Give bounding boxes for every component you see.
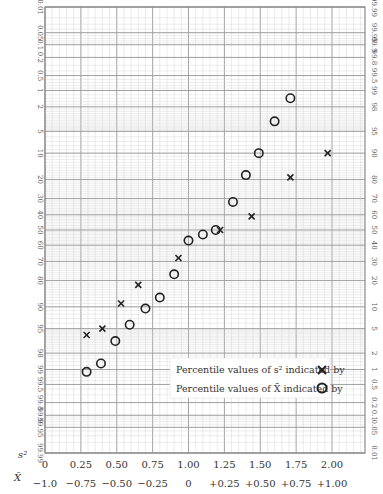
- y-tick-right: 70: [370, 194, 378, 203]
- y-tick-right: 0.2: [370, 397, 378, 408]
- x-tick: +0.50: [245, 478, 276, 489]
- x-tick: +0.25: [209, 478, 240, 489]
- x-axis-symbol: X̄: [13, 472, 22, 483]
- x-tick: 0: [185, 478, 191, 489]
- y-axis-left-labels: 0.010.050.10.20.512510203040506070809095…: [36, 0, 44, 463]
- x-tick: 1.25: [213, 459, 235, 470]
- y-tick-right: 80: [370, 175, 378, 184]
- y-tick-right: 20: [370, 276, 378, 285]
- circle-marker: [97, 359, 105, 367]
- y-tick-right: 0.5: [370, 379, 378, 390]
- x-tick: 1.75: [285, 459, 307, 470]
- y-tick-right: 60: [370, 210, 378, 219]
- x-tick: +1.00: [317, 478, 348, 489]
- y-tick-right: 90: [370, 149, 378, 158]
- circle-marker: [125, 321, 133, 329]
- y-tick-right: 40: [370, 241, 378, 250]
- y-tick-right: 99.5: [370, 68, 378, 84]
- x-tick: 1.00: [177, 459, 199, 470]
- y-tick-right: 99.99: [370, 0, 378, 17]
- y-tick-left: 2: [36, 105, 44, 109]
- y-tick-left: 30: [36, 194, 44, 203]
- y-tick-right: 0.05: [370, 420, 378, 436]
- y-tick-left: 0.5: [36, 70, 44, 81]
- x-axis-labels: s²00.250.500.751.001.251.501.752.00X̄−1.…: [13, 449, 347, 489]
- y-tick-left: 20: [36, 175, 44, 184]
- x-axis-symbol: s²: [18, 449, 27, 460]
- x-tick: 0: [42, 459, 48, 470]
- y-tick-left: 0.2: [36, 52, 44, 63]
- y-tick-left: 40: [36, 210, 44, 219]
- y-tick-left: 99: [36, 365, 44, 374]
- y-tick-left: 5: [36, 129, 44, 133]
- x-tick: −1.0: [33, 478, 57, 489]
- x-tick: 2.00: [321, 459, 343, 470]
- x-tick: +0.75: [281, 478, 312, 489]
- y-tick-right: 10: [370, 302, 378, 311]
- y-axis-right-labels: 99.9999.9599.999.899.5999895908070605040…: [370, 0, 378, 461]
- x-tick: 0.75: [141, 459, 163, 470]
- x-tick: 0.50: [106, 459, 128, 470]
- x-tick: 0.25: [70, 459, 92, 470]
- y-tick-left: 90: [36, 302, 44, 311]
- y-tick-left: 0.01: [36, 0, 44, 15]
- y-tick-left: 0.1: [36, 39, 44, 50]
- y-tick-left: 1: [36, 88, 44, 92]
- y-tick-left: 60: [36, 241, 44, 250]
- x-tick: −0.50: [101, 478, 132, 489]
- y-tick-right: 99.8: [370, 50, 378, 66]
- y-tick-right: 99: [370, 86, 378, 95]
- x-tick: −0.75: [66, 478, 97, 489]
- x-tick: −0.25: [137, 478, 168, 489]
- y-tick-right: 50: [370, 226, 378, 235]
- legend: Percentile values of s² indicated by Per…: [170, 358, 345, 398]
- y-tick-right: 2: [370, 351, 378, 355]
- x-tick: 1.50: [249, 459, 271, 470]
- y-tick-right: 1: [370, 367, 378, 371]
- y-tick-right: 98: [370, 102, 378, 111]
- y-tick-right: 95: [370, 127, 378, 136]
- y-tick-left: 70: [36, 257, 44, 266]
- y-tick-left: 99.95: [36, 417, 44, 437]
- y-tick-left: 80: [36, 276, 44, 285]
- y-tick-left: 50: [36, 226, 44, 235]
- y-tick-right: 30: [370, 257, 378, 266]
- y-tick-left: 10: [36, 149, 44, 158]
- y-tick-right: 0.01: [370, 445, 378, 461]
- y-tick-left: 98: [36, 349, 44, 358]
- y-tick-right: 5: [370, 326, 378, 330]
- y-tick-left: 95: [36, 324, 44, 333]
- y-tick-left: 99.5: [36, 377, 44, 393]
- probability-plot: 0.010.050.10.20.512510203040506070809095…: [0, 0, 383, 494]
